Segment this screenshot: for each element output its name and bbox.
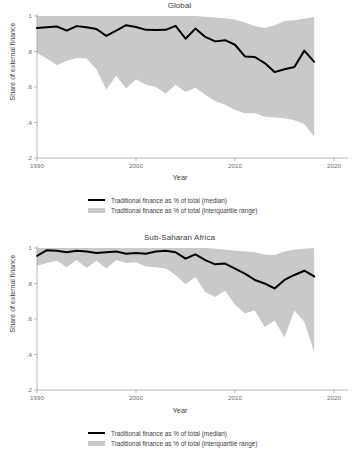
x-tick-label: 2000 xyxy=(129,162,143,169)
legend-label-range: Traditional finance as % of total (inter… xyxy=(111,207,257,214)
x-tick-label: 2020 xyxy=(327,162,341,169)
legend-band-swatch-icon xyxy=(88,205,105,215)
x-tick-label: 2000 xyxy=(129,394,143,401)
y-tick-label: .4 xyxy=(27,351,33,358)
y-tick-label: 1 xyxy=(29,12,33,19)
y-tick-label: .4 xyxy=(27,119,33,126)
y-axis-label-global: Share of external finance xyxy=(9,2,16,122)
legend-item-median-ssa: Traditional finance as % of total (media… xyxy=(0,428,359,438)
x-tick-label: 1990 xyxy=(30,162,44,169)
x-tick-label: 2010 xyxy=(228,162,242,169)
x-tick-label: 2020 xyxy=(327,394,341,401)
y-tick-label: .6 xyxy=(27,315,33,322)
legend-global: Traditional finance as % of total (media… xyxy=(0,195,359,215)
x-tick-label: 1990 xyxy=(30,394,44,401)
figure-root: Global .2.4.6.811990200020102020 Share o… xyxy=(0,0,359,465)
legend-item-median-global: Traditional finance as % of total (media… xyxy=(0,195,359,205)
y-tick-label: .8 xyxy=(27,280,33,287)
x-tick-label: 2010 xyxy=(228,394,242,401)
x-axis-label-ssa: Year xyxy=(36,406,324,415)
interquartile-band xyxy=(37,16,314,137)
y-axis-label-ssa: Share of external finance xyxy=(9,234,16,354)
legend-ssa: Traditional finance as % of total (media… xyxy=(0,428,359,448)
legend-line-swatch-icon xyxy=(88,428,105,438)
legend-item-range-ssa: Traditional finance as % of total (inter… xyxy=(0,438,359,448)
y-tick-label: .2 xyxy=(27,154,33,161)
legend-item-range-global: Traditional finance as % of total (inter… xyxy=(0,205,359,215)
legend-label-median: Traditional finance as % of total (media… xyxy=(111,430,227,437)
y-tick-label: .8 xyxy=(27,48,33,55)
legend-line-swatch-icon xyxy=(88,195,105,205)
x-axis-label-global: Year xyxy=(36,173,324,182)
y-tick-label: .2 xyxy=(27,386,33,393)
y-tick-label: .6 xyxy=(27,83,33,90)
legend-band-swatch-icon xyxy=(88,438,105,448)
chart-panel-ssa: Sub-Saharan Africa .2.4.6.81199020002010… xyxy=(0,232,359,465)
interquartile-band xyxy=(37,248,314,352)
legend-label-median: Traditional finance as % of total (media… xyxy=(111,197,227,204)
y-tick-label: 1 xyxy=(29,244,33,251)
legend-label-range: Traditional finance as % of total (inter… xyxy=(111,440,257,447)
